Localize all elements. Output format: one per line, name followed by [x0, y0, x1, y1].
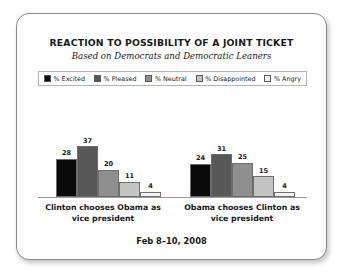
bar-group-clinton: 28 37 20 11 4 [56, 98, 161, 197]
bar-rect-angry [274, 192, 295, 198]
bar-item: 25 [232, 154, 253, 197]
legend-label-disappointed: % Disappointed [205, 75, 255, 83]
legend-label-angry: % Angry [274, 75, 301, 83]
category-labels: Clinton chooses Obama as vice president … [38, 203, 307, 229]
legend-swatch-angry [264, 75, 271, 82]
legend-item-disappointed: % Disappointed [196, 75, 256, 83]
legend-swatch-excited [44, 75, 51, 82]
chart-card: REACTION TO POSSIBILITY OF A JOINT TICKE… [16, 13, 327, 260]
bar-item: 28 [56, 150, 77, 197]
legend-item-angry: % Angry [264, 75, 301, 83]
bar-value: 15 [259, 168, 268, 175]
bar-value: 25 [238, 154, 247, 161]
bar-item: 15 [253, 168, 274, 197]
bar-value: 11 [125, 173, 134, 180]
bar-value: 4 [282, 183, 287, 190]
bar-rect-disappointed [253, 176, 274, 197]
bar-rect-excited [190, 164, 211, 197]
legend-label-neutral: % Neutral [155, 75, 187, 83]
category-label-clinton: Clinton chooses Obama as vice president [38, 203, 168, 224]
bar-rect-disappointed [119, 182, 140, 197]
bar-value: 31 [217, 146, 226, 153]
chart-legend: % Excited % Pleased % Neutral % Disappoi… [38, 71, 307, 86]
legend-item-pleased: % Pleased [94, 75, 136, 83]
axis-baseline [38, 197, 307, 198]
bar-rect-pleased [77, 146, 98, 197]
legend-swatch-disappointed [196, 75, 203, 82]
bar-item: 4 [140, 183, 161, 197]
bar-rect-angry [140, 192, 161, 198]
bar-item: 20 [98, 161, 119, 197]
chart-date-annotation: Feb 8–10, 2008 [17, 236, 326, 246]
bar-value: 37 [83, 138, 92, 145]
bar-value: 20 [104, 161, 113, 168]
bar-rect-pleased [211, 154, 232, 197]
bar-item: 31 [211, 146, 232, 197]
bar-item: 11 [119, 173, 140, 197]
legend-item-neutral: % Neutral [145, 75, 186, 83]
legend-label-pleased: % Pleased [104, 75, 137, 83]
bar-rect-neutral [98, 170, 119, 198]
bar-rect-neutral [232, 163, 253, 197]
bar-value: 4 [148, 183, 153, 190]
bar-value: 24 [196, 155, 205, 162]
page-title: REACTION TO POSSIBILITY OF A JOINT TICKE… [17, 37, 326, 48]
legend-label-excited: % Excited [54, 75, 86, 83]
bar-value: 28 [62, 150, 71, 157]
legend-item-excited: % Excited [44, 75, 85, 83]
bar-item: 24 [190, 155, 211, 197]
chart-subtitle: Based on Democrats and Democratic Leaner… [17, 51, 326, 61]
category-label-obama: Obama chooses Clinton as vice president [177, 203, 307, 224]
legend-swatch-neutral [145, 75, 152, 82]
plot-area: 28 37 20 11 4 24 [38, 98, 307, 198]
title-block: REACTION TO POSSIBILITY OF A JOINT TICKE… [17, 37, 326, 61]
legend-swatch-pleased [94, 75, 101, 82]
bar-item: 4 [274, 183, 295, 197]
bar-rect-excited [56, 159, 77, 198]
bar-group-obama: 24 31 25 15 4 [190, 98, 295, 197]
bar-item: 37 [77, 138, 98, 197]
